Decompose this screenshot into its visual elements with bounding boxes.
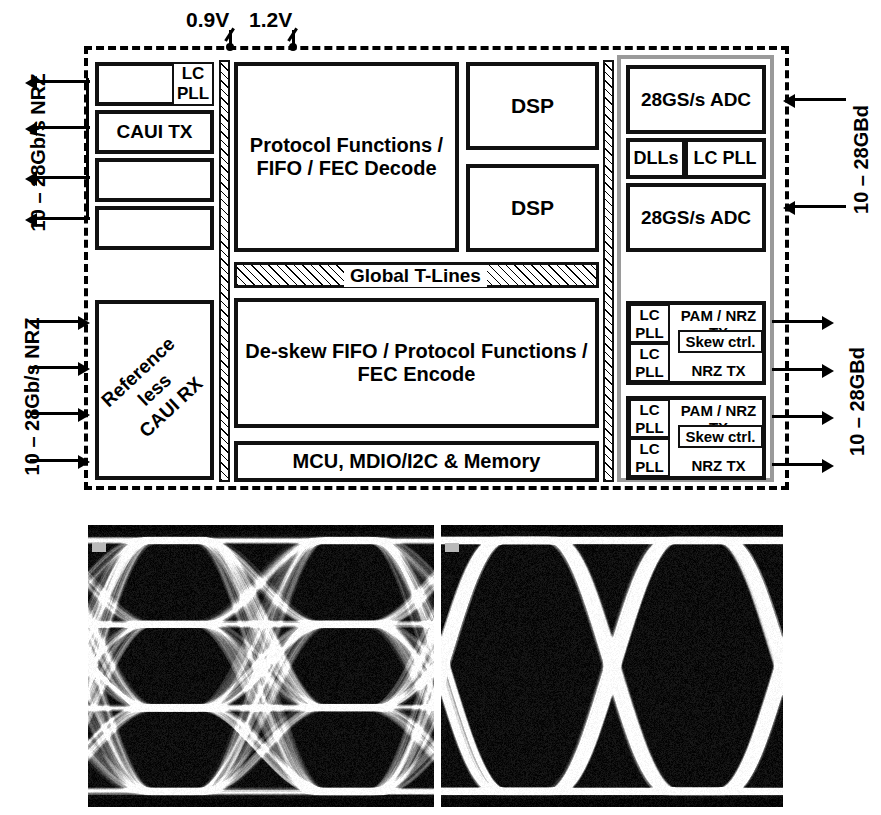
right-top-io-label: 10 – 28GBd [786, 148, 881, 171]
tx-lane-1-pll-a: LC PLL [629, 304, 670, 343]
tx-lane-2-skew-ctrl: Skew ctrl. [678, 425, 763, 448]
tx-lane-2-nrz-label: NRZ TX [673, 457, 764, 474]
tx-lane-1-pll-b: LC PLL [629, 343, 670, 382]
caui-tx-row-4 [95, 206, 214, 250]
nrz-eye-diagram [441, 525, 783, 807]
right-bottom-io-label: 10 – 28GBd [782, 390, 881, 413]
global-tlines-label: Global T-Lines [344, 265, 487, 287]
caui-rx-label: Reference less CAUI RX [90, 326, 220, 454]
caui-rx-block: Reference less CAUI RX [95, 300, 214, 480]
tx-lane-2-pll-b: LC PLL [629, 438, 670, 477]
lc-pll-mid-block: LC PLL [684, 138, 766, 179]
pam4-eye-diagram [88, 525, 434, 807]
tx-lane-1-divider [629, 342, 670, 345]
dlls-block: DLLs [626, 138, 686, 179]
lc-pll-top: LC PLL [172, 62, 214, 106]
mcu-mdio-i2c-memory: MCU, MDIO/I2C & Memory [234, 441, 599, 482]
vertical-tline-left [219, 60, 230, 482]
dsp-block-1: DSP [466, 62, 599, 150]
deskew-fifo-protocol-fec-encode: De-skew FIFO / Protocol Functions / FEC … [234, 298, 599, 428]
protocol-functions-fifo-fec-decode: Protocol Functions / FIFO / FEC Decode [234, 62, 459, 252]
vertical-tline-right [603, 60, 614, 482]
tx-lane-1-nrz-label: NRZ TX [673, 362, 764, 379]
caui-tx-row-2: CAUI TX [95, 110, 214, 154]
tx-lane-2-pll-a: LC PLL [629, 399, 670, 438]
tx-lane-1-skew-ctrl: Skew ctrl. [678, 330, 763, 353]
caui-tx-row-3 [95, 158, 214, 202]
tx-lane-2-divider [629, 437, 670, 440]
dsp-block-2: DSP [466, 164, 599, 252]
adc-block-2: 28GS/s ADC [626, 183, 766, 252]
adc-block-1: 28GS/s ADC [626, 65, 766, 134]
